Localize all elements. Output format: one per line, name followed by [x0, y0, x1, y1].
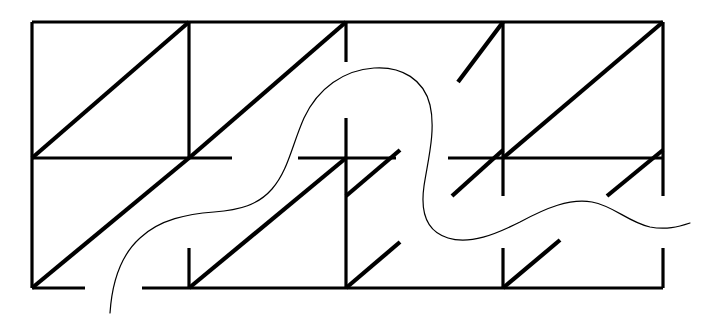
figure-container	[0, 0, 706, 321]
grid-diagram-svg	[0, 0, 706, 321]
figure-background	[0, 0, 706, 321]
